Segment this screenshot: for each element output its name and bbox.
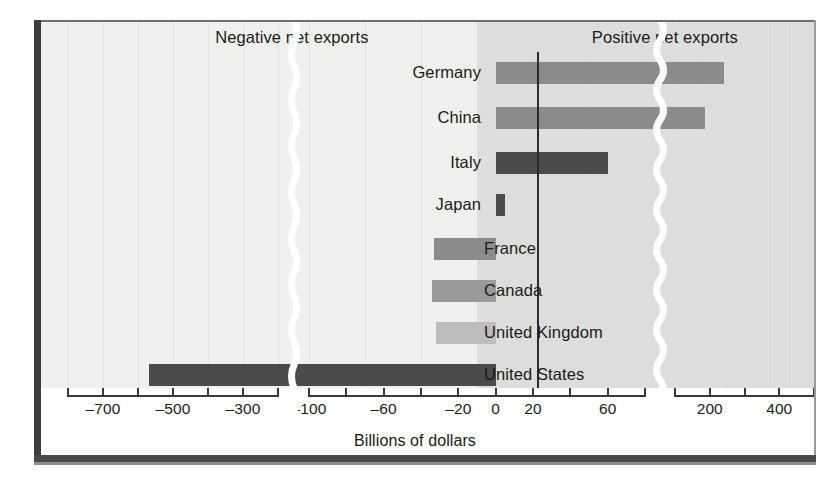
bar-japan [496, 194, 505, 216]
axis-tick-label: 20 [524, 400, 541, 418]
axis-tick [67, 388, 69, 397]
gridline [103, 22, 104, 388]
axis-tick [102, 388, 104, 397]
frame-bottom [34, 455, 816, 462]
gridline [278, 22, 279, 388]
negative-region-title: Negative net exports [215, 28, 368, 47]
gridline [768, 22, 769, 388]
positive-region-title: Positive net exports [592, 28, 738, 47]
axis-tick [709, 388, 711, 397]
axis-tick [172, 388, 174, 397]
axis-tick-label: 400 [766, 400, 792, 418]
axis-segment-1 [309, 395, 645, 397]
axis-tick [744, 388, 746, 397]
category-label-italy: Italy [450, 153, 481, 172]
gridline [745, 22, 746, 388]
gridline [208, 22, 209, 388]
category-label-france: France [484, 239, 536, 258]
axis-tick [532, 388, 534, 397]
axis-tick-label: –60 [371, 400, 397, 418]
gridline [173, 22, 174, 388]
frame-bottom-shadow [34, 462, 816, 465]
axis-tick [457, 388, 459, 397]
gridline [365, 22, 366, 388]
bar-germany [496, 62, 724, 84]
axis-tick-label: –300 [226, 400, 261, 418]
category-label-united-states: United States [484, 365, 584, 384]
axis-tick-label: 200 [697, 400, 723, 418]
gridline [243, 22, 244, 388]
axis-tick [644, 388, 646, 397]
axis-tick-label: –100 [292, 400, 327, 418]
gridline [791, 22, 792, 388]
category-label-germany: Germany [412, 63, 481, 82]
axis-tick [137, 388, 139, 397]
axis-tick [569, 388, 571, 397]
gridline [68, 22, 69, 388]
axis-tick [778, 388, 780, 397]
axis-tick [607, 388, 609, 397]
frame-right [814, 20, 816, 456]
chart-figure: Negative net exports Positive net export… [0, 0, 830, 486]
axis-tick-label: –20 [445, 400, 471, 418]
axis-tick [242, 388, 244, 397]
category-label-japan: Japan [436, 195, 481, 214]
axis-tick [345, 388, 347, 397]
axis-tick [420, 388, 422, 397]
gridline [138, 22, 139, 388]
category-label-china: China [437, 108, 481, 127]
frame-top [41, 20, 816, 22]
x-axis-title: Billions of dollars [0, 432, 830, 450]
gridline [309, 22, 310, 388]
frame-left [34, 20, 41, 462]
axis-tick [383, 388, 385, 397]
axis-tick [495, 388, 497, 397]
axis-tick-label: 60 [599, 400, 616, 418]
category-label-canada: Canada [484, 281, 542, 300]
axis-tick [674, 388, 676, 397]
bar-china [496, 107, 705, 129]
bar-italy [496, 152, 608, 174]
axis-tick [207, 388, 209, 397]
axis-tick-label: 0 [491, 400, 500, 418]
axis-tick [277, 388, 279, 397]
bar-united-states [149, 364, 496, 386]
x-axis: –700–500–300–100–60–2002060200400 [41, 388, 814, 414]
axis-tick-label: –500 [156, 400, 191, 418]
category-label-united-kingdom: United Kingdom [484, 323, 603, 342]
axis-tick-label: –700 [86, 400, 121, 418]
axis-tick [308, 388, 310, 397]
